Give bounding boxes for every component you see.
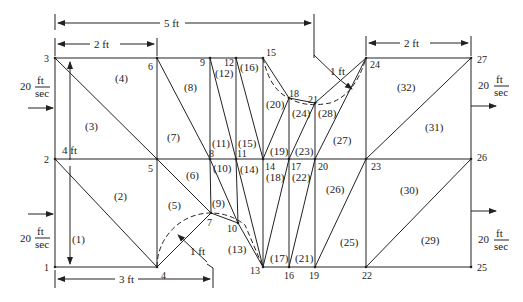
svg-text:sec: sec [494, 240, 508, 252]
node-point [262, 57, 265, 60]
velocity-label-inlet-top: 20 ft sec [20, 74, 50, 99]
element-label: (5) [168, 199, 181, 212]
element-label: (26) [326, 183, 345, 196]
element-label: (17) [270, 252, 289, 265]
velocity-label-outlet-top: 20 ft sec [478, 73, 509, 98]
element-label: (6) [186, 169, 199, 182]
element-label: (14) [240, 163, 259, 176]
node-label: 2 [44, 154, 49, 165]
node-point [156, 158, 159, 161]
element-label: (25) [340, 236, 359, 249]
dim-2ft-right-label: 2 ft [404, 37, 419, 49]
mesh-edge [157, 159, 211, 213]
mesh-edge [210, 159, 211, 213]
node-point [365, 158, 368, 161]
node-point [365, 266, 368, 269]
node-label: 25 [477, 262, 487, 273]
element-label: (4) [115, 72, 128, 85]
node-label: 21 [308, 94, 318, 105]
node-label: 24 [370, 59, 380, 70]
svg-text:sec: sec [35, 238, 49, 250]
svg-text:20: 20 [20, 232, 32, 244]
mesh-edge [263, 58, 289, 98]
element-label: (23) [295, 145, 314, 158]
svg-text:20: 20 [20, 80, 32, 92]
node-point [288, 158, 291, 161]
element-label: (8) [184, 81, 197, 94]
element-label: (24) [292, 107, 311, 120]
element-label: (11) [212, 137, 230, 150]
svg-text:ft: ft [37, 225, 44, 237]
finite-element-mesh-diagram: 5 ft 2 ft 2 ft 4 ft 3 ft [0, 0, 523, 302]
node-point [365, 57, 368, 60]
node-point [314, 266, 317, 269]
dim-4ft-label: 4 ft [62, 144, 77, 156]
mesh-edge [366, 58, 471, 159]
node-label: 8 [209, 148, 214, 159]
radius-right-label: 1 ft [330, 65, 345, 77]
svg-text:sec: sec [494, 86, 508, 98]
element-label: (30) [400, 184, 419, 197]
node-label: 27 [477, 54, 487, 65]
node-label: 20 [318, 161, 328, 172]
mesh-edge [315, 159, 366, 267]
mesh-canvas: 5 ft 2 ft 2 ft 4 ft 3 ft [0, 0, 523, 302]
node-label: 15 [266, 47, 276, 58]
node-label: 16 [284, 270, 294, 281]
element-label: (16) [240, 61, 259, 74]
node-point [470, 158, 473, 161]
velocity-label-inlet-bottom: 20 ft sec [20, 225, 50, 250]
node-point [288, 266, 291, 269]
node-point [262, 266, 265, 269]
node-point [54, 158, 57, 161]
node-point [156, 266, 159, 269]
radius-left-label: 1 ft [190, 245, 205, 257]
element-label: (20) [266, 98, 285, 111]
node-label: 10 [227, 223, 237, 234]
node-point [235, 57, 238, 60]
element-label: (31) [425, 121, 444, 134]
node-point [54, 266, 57, 269]
svg-text:20: 20 [478, 233, 490, 245]
node-label: 7 [207, 217, 212, 228]
element-label: (10) [213, 162, 232, 175]
element-label: (28) [318, 107, 337, 120]
element-label: (22) [292, 171, 311, 184]
svg-text:ft: ft [37, 74, 44, 86]
element-label: (13) [228, 243, 247, 256]
node-label: 23 [371, 161, 381, 172]
element-label: (19) [270, 145, 289, 158]
node-label: 6 [148, 61, 153, 72]
node-label: 1 [44, 262, 49, 273]
element-label: (2) [114, 190, 127, 203]
element-label: (12) [215, 67, 234, 80]
node-point [237, 222, 240, 225]
node-point [262, 158, 265, 161]
node-label: 19 [309, 270, 319, 281]
velocity-label-outlet-bottom: 20 ft sec [478, 227, 509, 252]
dim-3ft-label: 3 ft [119, 273, 134, 285]
svg-text:ft: ft [496, 73, 503, 85]
node-point [209, 57, 212, 60]
node-point [470, 57, 473, 60]
mesh-edge [366, 159, 471, 267]
node-point [470, 266, 473, 269]
svg-text:sec: sec [35, 87, 49, 99]
node-point [156, 57, 159, 60]
node-point [210, 212, 213, 215]
node-point [54, 57, 57, 60]
node-label: 22 [362, 270, 372, 281]
dim-2ft-left-label: 2 ft [94, 38, 109, 50]
mesh-edge [157, 58, 210, 159]
node-label: 5 [148, 163, 153, 174]
node-label: 11 [237, 148, 247, 159]
element-label: (7) [167, 131, 180, 144]
node-label: 4 [161, 270, 166, 281]
svg-text:20: 20 [478, 79, 490, 91]
element-label: (18) [266, 171, 285, 184]
element-label: (21) [295, 252, 314, 265]
element-label: (32) [397, 81, 416, 94]
svg-text:ft: ft [496, 227, 503, 239]
node-label: 9 [200, 57, 205, 68]
dim-5ft-label: 5 ft [164, 17, 179, 29]
